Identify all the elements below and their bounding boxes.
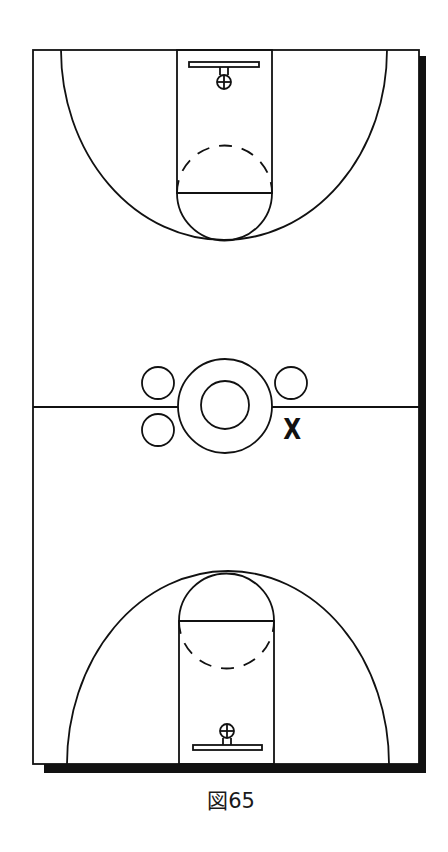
figure-caption: 図65	[0, 784, 448, 814]
defender-x-marker: X	[283, 414, 301, 444]
basketball-court-diagram	[0, 0, 448, 852]
backboard-top	[189, 62, 259, 67]
backboard-bottom	[193, 745, 262, 750]
court-lines	[33, 50, 419, 764]
